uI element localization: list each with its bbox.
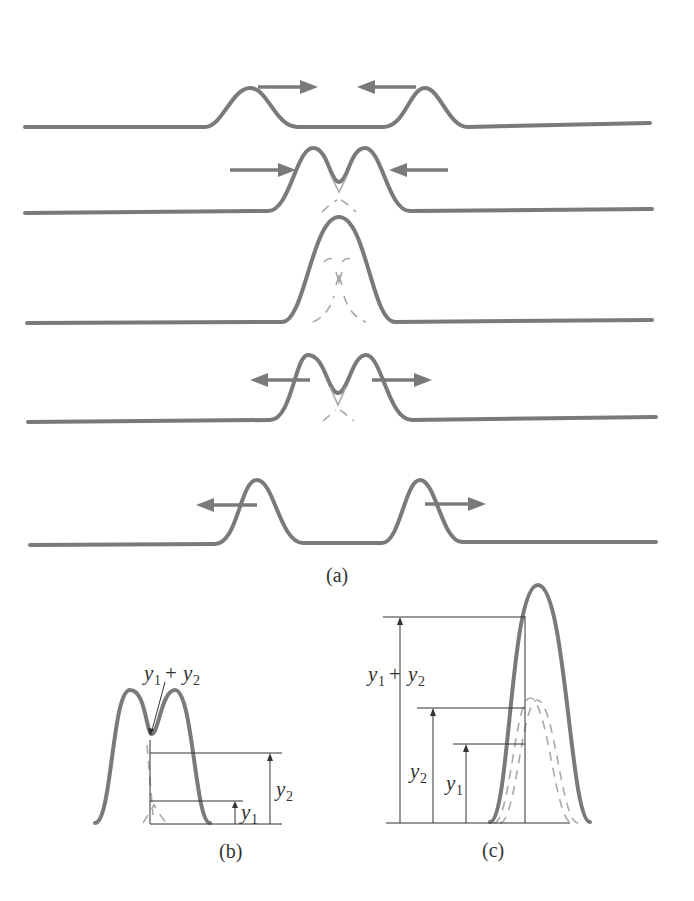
ghost-tails bbox=[323, 410, 354, 421]
superposition-diagram: (a) y 1 + y 2 y 2 y bbox=[0, 0, 694, 901]
arrowhead-right-icon bbox=[414, 373, 432, 387]
svg-text:y: y bbox=[142, 661, 154, 685]
row-3-full-overlap bbox=[27, 217, 652, 323]
ghost-tails bbox=[322, 200, 356, 212]
svg-text:y: y bbox=[239, 800, 251, 824]
wave-row-5 bbox=[30, 480, 656, 545]
row-4-pulses-separating bbox=[28, 355, 656, 422]
y1-arrowhead-icon bbox=[463, 744, 469, 752]
arrowhead-right-icon bbox=[468, 497, 486, 511]
row-1-pulses-approaching bbox=[25, 80, 650, 127]
svg-text:y: y bbox=[181, 661, 193, 685]
panel-b-label: (b) bbox=[219, 840, 242, 863]
ghost-tails bbox=[143, 805, 166, 823]
ghost-tails bbox=[313, 296, 366, 322]
svg-text:y: y bbox=[406, 662, 418, 686]
wave-panel-b bbox=[95, 690, 210, 823]
arrowhead-left-icon bbox=[357, 80, 375, 94]
panel-a-label: (a) bbox=[326, 564, 348, 587]
svg-text:y: y bbox=[408, 759, 420, 783]
wave-panel-c bbox=[490, 585, 590, 822]
svg-text:1: 1 bbox=[251, 812, 258, 827]
svg-text:1: 1 bbox=[456, 783, 463, 798]
ghost-peaks bbox=[324, 259, 354, 263]
svg-text:y: y bbox=[444, 771, 456, 795]
label-c-y2: y 2 bbox=[408, 759, 427, 786]
arrowhead-left-icon bbox=[389, 163, 407, 177]
wave-row-2 bbox=[25, 148, 652, 213]
arrowhead-left-icon bbox=[196, 498, 214, 512]
svg-text:1: 1 bbox=[154, 673, 161, 688]
y2-arrowhead-icon bbox=[267, 753, 273, 761]
svg-text:+: + bbox=[389, 662, 401, 686]
svg-text:+: + bbox=[165, 661, 177, 685]
svg-text:y: y bbox=[366, 662, 378, 686]
panel-b: y 1 + y 2 y 2 y 1 (b) bbox=[95, 661, 293, 863]
arrowhead-right-icon bbox=[300, 80, 318, 94]
label-b-sum: y 1 + y 2 bbox=[142, 661, 200, 688]
svg-text:2: 2 bbox=[193, 673, 200, 688]
label-c-sum: y 1 + y 2 bbox=[366, 662, 425, 689]
ghost-cross bbox=[336, 272, 342, 285]
svg-text:2: 2 bbox=[286, 789, 293, 804]
label-b-y1: y 1 bbox=[239, 800, 258, 827]
panel-c-label: (c) bbox=[482, 839, 504, 862]
label-c-y1: y 1 bbox=[444, 771, 463, 798]
panel-c: y 1 + y 2 y 2 y 1 (c) bbox=[366, 585, 590, 862]
panel-a: (a) bbox=[25, 80, 656, 587]
arrowhead-left-icon bbox=[250, 373, 268, 387]
label-b-y2: y 2 bbox=[274, 777, 293, 804]
svg-text:y: y bbox=[274, 777, 286, 801]
row-2-pulses-overlapping bbox=[25, 148, 652, 213]
wave-row-3 bbox=[27, 217, 652, 323]
svg-text:1: 1 bbox=[378, 674, 385, 689]
y2-arrowhead-icon bbox=[430, 708, 436, 716]
sum-arrowhead-icon bbox=[397, 617, 403, 625]
y1-arrowhead-icon bbox=[232, 801, 238, 808]
row-5-pulses-separated bbox=[30, 480, 656, 545]
wave-row-1 bbox=[25, 88, 650, 127]
svg-text:2: 2 bbox=[420, 771, 427, 786]
svg-text:2: 2 bbox=[418, 674, 425, 689]
